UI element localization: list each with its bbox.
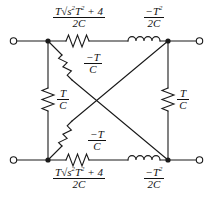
fraction-numerator: −T2 — [144, 167, 165, 178]
fraction-top-right: −T2 2C — [144, 6, 165, 29]
fraction-denominator: 2C — [53, 178, 105, 190]
junction-bottom-left — [45, 157, 50, 162]
label-resistor-diagonal-upper: −T C — [80, 52, 106, 75]
label-inductor-bottom-right: −T2 2C — [133, 167, 175, 190]
inductor-bottom-right-body — [128, 156, 160, 160]
resistor-diagonal-upper-body — [59, 55, 72, 80]
fraction-numerator: −T — [88, 129, 106, 140]
resistor-bottom-left-body — [66, 154, 89, 166]
label-resistor-right-shunt: T C — [172, 88, 194, 111]
fraction-denominator: C — [177, 99, 188, 111]
wire-diagonal-lower-a — [48, 146, 62, 160]
fraction-numerator: −T2 — [144, 6, 165, 17]
fraction-numerator: −T — [84, 52, 102, 63]
fraction-numerator: T√s2T2 + 4 — [53, 6, 105, 17]
terminal-bottom-right[interactable] — [196, 157, 202, 163]
label-inductor-top-right: −T2 2C — [133, 6, 175, 29]
wire-diagonal-upper-a — [48, 41, 62, 55]
fraction-denominator: C — [84, 63, 102, 75]
resistor-diagonal-lower-body — [59, 121, 72, 146]
resistor-top-left-body — [66, 35, 89, 47]
label-resistor-bottom-left: T√s2T2 + 4 2C — [38, 167, 120, 190]
inductor-top-right-body — [128, 37, 160, 41]
terminal-top-right[interactable] — [196, 38, 202, 44]
label-resistor-diagonal-lower: −T C — [84, 129, 110, 152]
fraction-denominator: 2C — [144, 178, 165, 190]
terminal-top-left[interactable] — [10, 38, 16, 44]
fraction-right-shunt: T C — [177, 88, 188, 111]
fraction-top-left: T√s2T2 + 4 2C — [53, 6, 105, 29]
junction-top-left — [45, 38, 50, 43]
fraction-denominator: 2C — [144, 17, 165, 29]
junction-top-right — [165, 38, 170, 43]
fraction-numerator: T√s2T2 + 4 — [53, 167, 105, 178]
terminal-bottom-left[interactable] — [10, 157, 16, 163]
fraction-numerator: T — [177, 88, 188, 99]
fraction-left-shunt: T C — [57, 88, 68, 111]
fraction-denominator: C — [57, 99, 68, 111]
fraction-denominator: 2C — [53, 17, 105, 29]
junction-bottom-right — [165, 157, 170, 162]
fraction-numerator: T — [57, 88, 68, 99]
label-resistor-left-shunt: T C — [52, 88, 74, 111]
fraction-denominator: C — [88, 140, 106, 152]
fraction-bottom-right: −T2 2C — [144, 167, 165, 190]
fraction-diagonal-lower: −T C — [88, 129, 106, 152]
fraction-diagonal-upper: −T C — [84, 52, 102, 75]
fraction-bottom-left: T√s2T2 + 4 2C — [53, 167, 105, 190]
circuit-diagram: T√s2T2 + 4 2C −T2 2C T√s2T2 + 4 2C −T2 2… — [0, 0, 213, 201]
label-resistor-top-left: T√s2T2 + 4 2C — [38, 6, 120, 29]
